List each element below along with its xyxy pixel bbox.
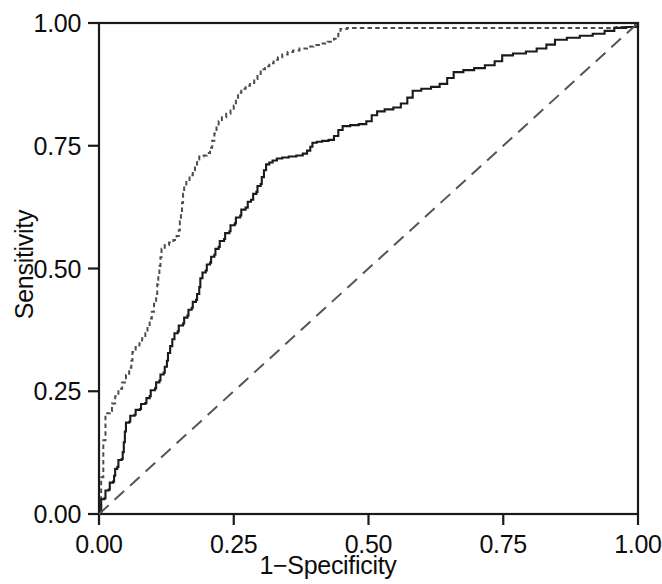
y-tick-label-4: 1.00 [0,9,81,38]
y-tick-label-0: 0.00 [0,500,81,529]
x-axis-label: 1−Specificity [0,551,656,580]
series-layer [99,23,638,514]
reference-diagonal [99,23,638,514]
y-axis-label: Sensitivity [10,145,39,385]
